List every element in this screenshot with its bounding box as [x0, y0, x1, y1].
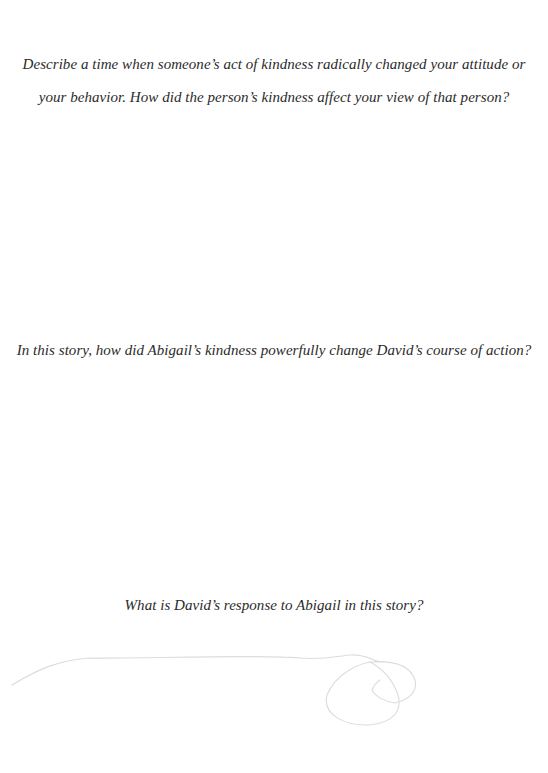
swirl-flourish-icon — [0, 640, 548, 740]
question-1-line-1: Describe a time when someone’s act of ki… — [0, 48, 548, 81]
question-1-line-2: your behavior. How did the person’s kind… — [0, 81, 548, 114]
reflection-question-3: What is David’s response to Abigail in t… — [0, 595, 548, 615]
reflection-question-2: In this story, how did Abigail’s kindnes… — [0, 340, 548, 360]
reflection-question-1: Describe a time when someone’s act of ki… — [0, 48, 548, 114]
